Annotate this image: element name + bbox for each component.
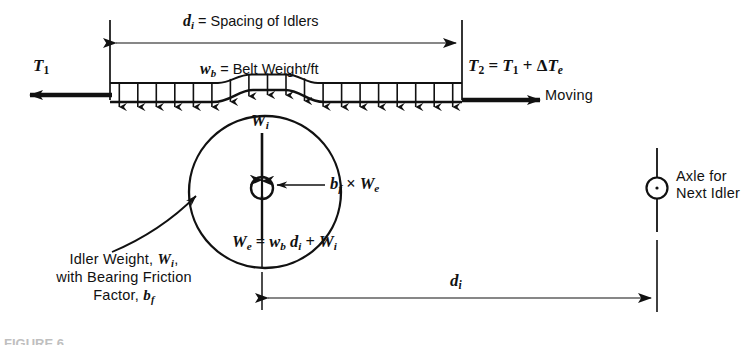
belt-weight-text: = Belt Weight/ft <box>216 61 319 77</box>
tension-t2-symbol: T <box>468 56 478 75</box>
next-idler-annotation-line2: Next Idler <box>676 185 740 202</box>
effective-weight-equation: We = wb di + Wi <box>232 233 337 252</box>
tension-t1-ref: T <box>502 56 512 75</box>
equals-sign-1: = <box>484 56 502 75</box>
idler-weight-label: Wi <box>251 112 269 131</box>
top-dimension-label: di = Spacing of Idlers <box>183 12 319 32</box>
callout-wi-symbol: W <box>158 251 172 267</box>
delta-te-subscript: e <box>558 64 563 77</box>
bottom-dimension-subscript: i <box>459 279 462 292</box>
bottom-dimension-label: di <box>450 272 462 293</box>
next-idler-annotation-line1: Axle for <box>676 168 740 185</box>
callout-line-2: with Bearing Friction <box>18 269 230 286</box>
bottom-dimension-symbol: d <box>450 271 459 290</box>
moving-label: Moving <box>545 87 593 104</box>
figure-caption-cropped: FIGURE 6 <box>4 336 64 345</box>
plus-sign-1: + <box>519 56 537 75</box>
wi-subscript-ref: i <box>334 240 337 252</box>
next-axle-center-dot <box>655 186 658 189</box>
effective-weight-symbol-ref: W <box>360 174 375 193</box>
belt-weight-symbol: w <box>200 60 211 77</box>
tension-t1-subscript: 1 <box>43 64 49 77</box>
delta-te-symbol: T <box>547 56 557 75</box>
wi-symbol-ref: W <box>319 232 334 251</box>
equals-sign-2: = <box>252 232 270 251</box>
callout-text-3: Factor, <box>93 287 143 303</box>
friction-force-label: bf × We <box>330 175 379 194</box>
idler-weight-callout: Idler Weight, Wi, with Bearing Friction … <box>18 251 230 305</box>
tension-t1-label: T1 <box>33 57 49 78</box>
tension-t1-symbol: T <box>33 56 43 75</box>
friction-factor-symbol: b <box>330 174 338 193</box>
callout-comma-1: , <box>174 251 178 267</box>
tension-t2-equation: T2 = T1 + ΔTe <box>468 57 563 78</box>
idler-weight-symbol: W <box>251 111 266 130</box>
multiply-sign: × <box>342 174 360 193</box>
callout-line-1: Idler Weight, Wi, <box>18 251 230 269</box>
next-idler-axle-group <box>647 148 668 232</box>
next-idler-annotation: Axle for Next Idler <box>676 168 740 202</box>
top-dimension-symbol: d <box>183 12 191 29</box>
plus-sign-2: + <box>301 232 319 251</box>
top-dimension-text: = Spacing of Idlers <box>194 13 319 29</box>
axle-force-group <box>251 133 325 240</box>
belt-weight-label: wb = Belt Weight/ft <box>200 60 319 80</box>
callout-leader-arrow <box>112 196 196 252</box>
wb-symbol: w <box>269 232 280 251</box>
idler-weight-subscript: i <box>266 119 269 131</box>
callout-bf-subscript: f <box>151 294 155 305</box>
we-symbol: W <box>232 232 247 251</box>
delta-symbol: Δ <box>537 56 548 75</box>
callout-leader-group <box>112 196 196 252</box>
effective-weight-subscript-ref: e <box>374 182 379 194</box>
callout-bf-symbol: b <box>143 287 151 303</box>
figure-canvas: di = Spacing of Idlers wb = Belt Weight/… <box>0 0 753 345</box>
callout-line-3: Factor, bf <box>18 287 230 305</box>
callout-text-1: Idler Weight, <box>70 251 158 267</box>
